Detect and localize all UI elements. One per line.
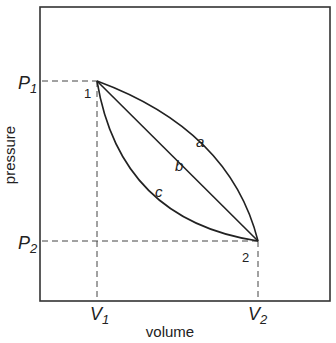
plot-frame xyxy=(40,7,330,301)
curve-b-label: b xyxy=(175,157,183,174)
p2-tick-label: P2 xyxy=(18,233,38,256)
point-2-label: 2 xyxy=(242,250,249,265)
v1-tick-label: V1 xyxy=(90,304,109,327)
curve-c-label: c xyxy=(155,183,163,200)
v2-tick-label: V2 xyxy=(248,304,268,327)
point-1-label: 1 xyxy=(84,86,91,101)
x-axis-title: volume xyxy=(146,323,194,340)
pv-diagram: a b c 1 2 P1 P2 V1 V2 volume pressure xyxy=(0,0,336,343)
y-axis-title: pressure xyxy=(1,126,18,184)
curve-a-label: a xyxy=(196,133,204,150)
p1-tick-label: P1 xyxy=(18,73,37,96)
